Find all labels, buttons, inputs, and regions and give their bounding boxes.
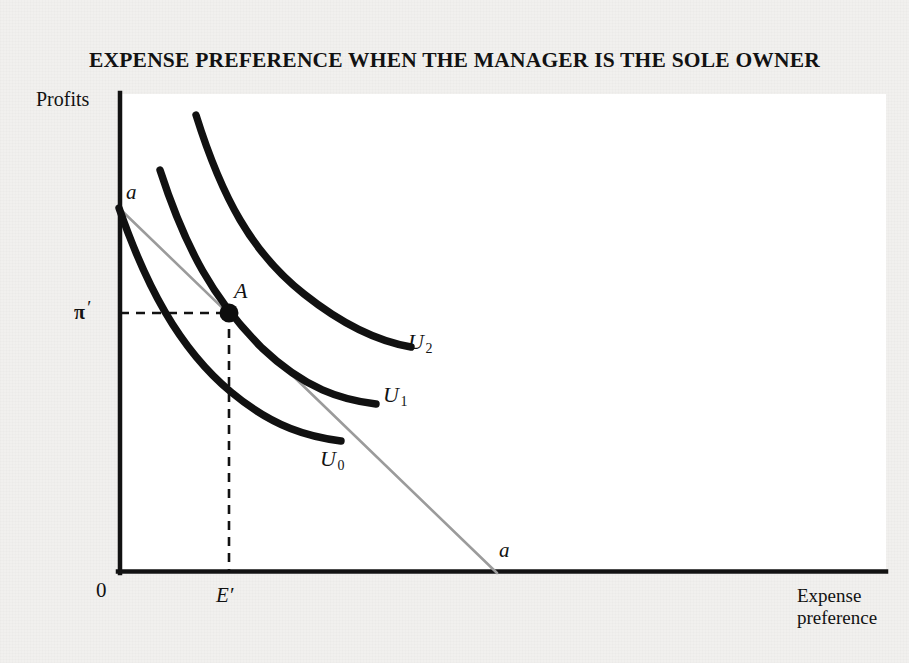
- curve-label-u0: U0: [320, 446, 344, 474]
- y-axis-label: Profits: [36, 88, 89, 111]
- budget-line-label-bottom: a: [499, 538, 510, 563]
- curve-label-u2-letter: U: [408, 329, 424, 354]
- budget-line-label-top: a: [126, 180, 137, 205]
- indifference-curve-u1: [160, 170, 376, 404]
- curve-label-u0-subscript: 0: [337, 458, 344, 473]
- point-a-marker: [220, 304, 239, 323]
- curve-label-u1-subscript: 1: [400, 394, 407, 409]
- curve-label-u1-letter: U: [383, 382, 399, 407]
- figure-page: EXPENSE PREFERENCE WHEN THE MANAGER IS T…: [0, 0, 909, 663]
- curve-label-u2-subscript: 2: [425, 341, 432, 356]
- chart-canvas: [0, 0, 909, 663]
- x-axis-label-line2: preference: [797, 607, 877, 628]
- y-tick-label-pi-prime: π′: [74, 297, 90, 324]
- budget-line-aa: [119, 208, 497, 573]
- origin-label: 0: [96, 578, 107, 603]
- indifference-curve-u0: [119, 208, 341, 441]
- pi-prime-mark: ′: [86, 297, 90, 318]
- x-axis-label: Expensepreference: [797, 585, 877, 629]
- pi-symbol: π: [74, 301, 85, 323]
- x-tick-label-e-prime: E′: [216, 583, 233, 608]
- axis-lines: [118, 93, 886, 573]
- curve-label-u0-letter: U: [320, 446, 336, 471]
- curve-label-u1: U1: [383, 382, 407, 410]
- point-a-label: A: [234, 278, 247, 304]
- x-axis-label-line1: Expense: [797, 585, 861, 606]
- curve-label-u2: U2: [408, 329, 432, 357]
